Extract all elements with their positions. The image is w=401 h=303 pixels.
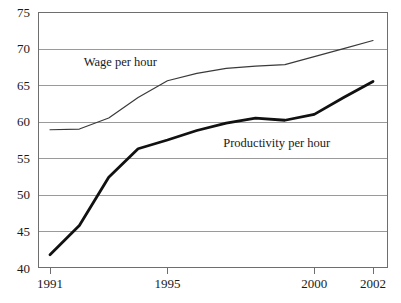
line-chart: 4045505560657075 1991199520002002 Wage p… [0,0,401,303]
series-label-productivity-per-hour: Productivity per hour [223,136,331,150]
x-tick-labels-group: 1991199520002002 [37,276,386,291]
y-tick-label-65: 65 [17,78,30,93]
series-line-productivity-per-hour [50,81,373,254]
y-tick-label-55: 55 [17,151,30,166]
y-tick-label-70: 70 [17,41,30,56]
x-tick-label-2000: 2000 [301,276,327,291]
x-tickmarks-group [51,268,374,274]
chart-page: 4045505560657075 1991199520002002 Wage p… [0,0,401,303]
x-tick-label-1991: 1991 [37,276,63,291]
y-tick-labels-group: 4045505560657075 [17,5,30,276]
series-labels-group: Wage per hourProductivity per hour [84,55,331,149]
y-tick-label-60: 60 [17,114,30,129]
x-tick-label-2002: 2002 [360,276,386,291]
x-tick-label-1995: 1995 [154,276,180,291]
y-tick-label-50: 50 [17,187,30,202]
series-label-wage-per-hour: Wage per hour [84,55,158,69]
y-tick-label-40: 40 [17,261,30,276]
y-tick-label-75: 75 [17,5,30,20]
gridlines-group [38,50,388,232]
y-tick-label-45: 45 [17,224,30,239]
